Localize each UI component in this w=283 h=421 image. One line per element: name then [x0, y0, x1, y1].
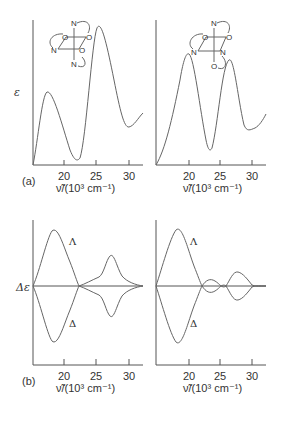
svg-text:N: N: [71, 60, 77, 69]
svg-text:O: O: [202, 33, 208, 42]
svg-text:N: N: [211, 19, 217, 28]
tick-label: 25: [214, 170, 226, 182]
tick-label: 20: [58, 170, 70, 182]
tick-label: 30: [123, 370, 135, 382]
y-label: ε: [14, 86, 20, 99]
panel-label-b: (b): [22, 375, 35, 387]
cd-curve-delta: [156, 280, 266, 343]
tick-label: 20: [183, 370, 195, 382]
svg-text:N: N: [220, 48, 226, 57]
lambda-label: Λ: [68, 236, 77, 247]
x-label: ν̃/(10³ cm⁻¹): [56, 382, 115, 394]
tick-label: 20: [183, 170, 195, 182]
lambda-label: Λ: [189, 236, 198, 247]
x-label: ν̃/(10³ cm⁻¹): [183, 382, 242, 394]
svg-text:O: O: [226, 33, 232, 42]
x-label: ν̃/(10³ cm⁻¹): [183, 182, 242, 194]
panel-b-right: Λ Δ 20 25 30 ν̃/(10³ cm⁻¹): [156, 220, 266, 394]
x-label: ν̃/(10³ cm⁻¹): [56, 182, 115, 194]
absorption-curve: [33, 26, 143, 165]
svg-text:O: O: [79, 46, 85, 55]
fac-molecule-diagram: N O O N O N: [50, 19, 92, 69]
panel-b-left: Λ Δ Δε 20 25 30 (b) ν̃/(10³ cm⁻¹): [15, 220, 143, 394]
tick-label: 30: [246, 170, 258, 182]
svg-text:N: N: [71, 19, 77, 28]
tick-label: 30: [123, 170, 135, 182]
delta-label: Δ: [69, 318, 76, 329]
y-label: Δε: [15, 281, 30, 294]
tick-label: 25: [214, 370, 226, 382]
cd-curve-delta: [33, 286, 143, 342]
tick-label: 25: [90, 170, 102, 182]
cd-curve-lambda: [33, 230, 143, 286]
delta-label: Δ: [190, 318, 197, 329]
tick-label: 20: [58, 370, 70, 382]
svg-text:O: O: [86, 33, 92, 42]
svg-text:N: N: [191, 48, 197, 57]
tick-label: 25: [90, 370, 102, 382]
svg-text:O: O: [62, 33, 68, 42]
panel-label-a: (a): [22, 175, 35, 187]
svg-text:N: N: [51, 46, 57, 55]
panel-a-left: ε 20 25 30 (a) ν̃/(10³ cm⁻¹) N O O N O N: [14, 19, 143, 194]
figure: ε 20 25 30 (a) ν̃/(10³ cm⁻¹) N O O N O N: [0, 0, 283, 421]
panel-a-right: 20 25 30 ν̃/(10³ cm⁻¹) N O O N N O: [156, 19, 266, 194]
tick-label: 30: [246, 370, 258, 382]
cd-curve-lambda: [156, 229, 266, 292]
mer-molecule-diagram: N O O N N O: [190, 19, 232, 71]
svg-text:O: O: [211, 62, 217, 71]
